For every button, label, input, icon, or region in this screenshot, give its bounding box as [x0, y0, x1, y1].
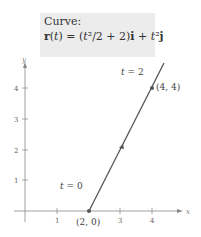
end-point — [150, 86, 154, 90]
x-tick-1: 1 — [55, 217, 59, 225]
t0-label: t = 0 — [60, 181, 83, 191]
x-axis-label: x — [186, 208, 190, 216]
start-point — [87, 209, 91, 213]
end-point-label: (4, 4) — [156, 82, 180, 92]
x-tick-3: 3 — [118, 217, 122, 225]
y-tick-3: 3 — [14, 116, 18, 124]
plot: 1 3 4 1 2 3 4 x y t = 0 t = 2 (2, 0) (4,… — [0, 0, 201, 237]
x-tick-4: 4 — [150, 217, 155, 225]
start-point-label: (2, 0) — [76, 217, 100, 227]
curve-line — [89, 63, 164, 211]
y-tick-1: 1 — [14, 177, 18, 185]
y-axis-label: y — [21, 56, 27, 64]
y-tick-2: 2 — [14, 147, 18, 155]
t2-label: t = 2 — [121, 67, 144, 77]
y-tick-4: 4 — [14, 85, 19, 93]
x-arrow-icon — [177, 209, 183, 213]
